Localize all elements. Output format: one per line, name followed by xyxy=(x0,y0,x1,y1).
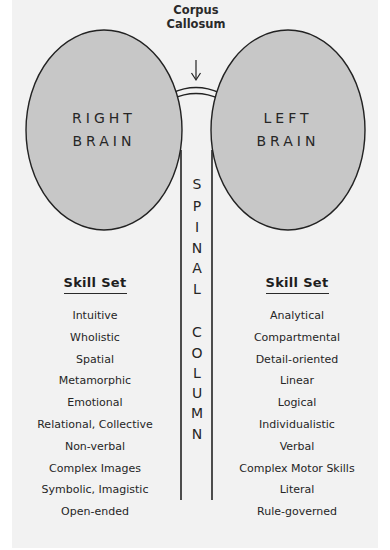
skill-item: Symbolic, Imagistic xyxy=(10,479,180,501)
skill-item: Individualistic xyxy=(212,414,382,436)
skill-item: Complex Images xyxy=(10,458,180,480)
spine-letter: O xyxy=(182,345,212,361)
spine-letter: I xyxy=(182,219,212,235)
left-brain-label-line-2: BRAIN xyxy=(228,130,348,153)
spine-letter: A xyxy=(182,260,212,276)
skill-item: Metamorphic xyxy=(10,370,180,392)
left-brain-label: LEFT BRAIN xyxy=(228,107,348,153)
skill-set-heading: Skill Set xyxy=(64,275,127,294)
right-brain-skill-set: Skill Set Intuitive Wholistic Spatial Me… xyxy=(10,272,180,523)
spine-letter: L xyxy=(182,365,212,381)
left-brain-skill-set: Skill Set Analytical Compartmental Detai… xyxy=(212,272,382,523)
spine-letter: N xyxy=(182,240,212,256)
skill-set-heading: Skill Set xyxy=(266,275,329,294)
skill-item: Rule-governed xyxy=(212,501,382,523)
spine-letter: N xyxy=(182,426,212,442)
skill-item: Logical xyxy=(212,392,382,414)
skill-item: Emotional xyxy=(10,392,180,414)
skill-item: Intuitive xyxy=(10,305,180,327)
skill-list: Intuitive Wholistic Spatial Metamorphic … xyxy=(10,305,180,523)
spine-letter: U xyxy=(182,385,212,401)
spine-letter: P xyxy=(182,198,212,214)
spine-letter: S xyxy=(182,176,212,192)
right-brain-label-line-1: RIGHT xyxy=(44,107,164,130)
skill-item: Wholistic xyxy=(10,327,180,349)
skill-item: Detail-oriented xyxy=(212,349,382,371)
skill-item: Relational, Collective xyxy=(10,414,180,436)
spine-letter: L xyxy=(182,281,212,297)
skill-list: Analytical Compartmental Detail-oriented… xyxy=(212,305,382,523)
skill-item: Verbal xyxy=(212,436,382,458)
right-brain-label-line-2: BRAIN xyxy=(44,130,164,153)
skill-item: Linear xyxy=(212,370,382,392)
spine-letter: C xyxy=(182,324,212,340)
skill-item: Literal xyxy=(212,479,382,501)
skill-item: Open-ended xyxy=(10,501,180,523)
skill-item: Compartmental xyxy=(212,327,382,349)
spinal-column-label: S P I N A L C O L U M N xyxy=(182,0,212,550)
spine-letter: M xyxy=(182,405,212,421)
right-brain-label: RIGHT BRAIN xyxy=(44,107,164,153)
skill-item: Non-verbal xyxy=(10,436,180,458)
skill-item: Analytical xyxy=(212,305,382,327)
left-brain-label-line-1: LEFT xyxy=(228,107,348,130)
skill-item: Complex Motor Skills xyxy=(212,458,382,480)
skill-item: Spatial xyxy=(10,349,180,371)
